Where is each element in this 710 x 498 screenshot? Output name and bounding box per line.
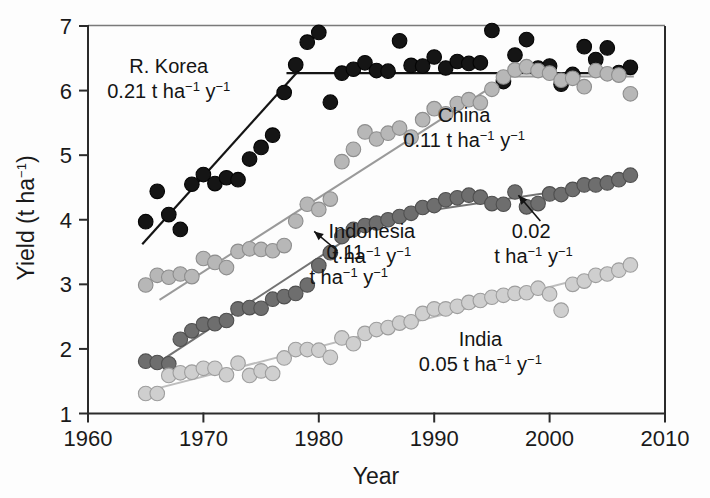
point-china bbox=[415, 112, 430, 127]
point-indonesia bbox=[623, 168, 638, 183]
annotation-unit-t-ha: t ha bbox=[494, 245, 528, 267]
point-india bbox=[231, 356, 246, 371]
annotation-unit-y: y bbox=[358, 266, 374, 288]
annotation-rate-value: 0.11 bbox=[403, 129, 446, 151]
x-tick-label-1990: 1990 bbox=[410, 426, 459, 451]
point-india bbox=[554, 303, 569, 318]
point-rkorea bbox=[392, 34, 407, 49]
annotation-unit-t-ha: t ha bbox=[463, 353, 497, 375]
svg-text:Yield (t ha−1): Yield (t ha−1) bbox=[13, 155, 39, 280]
annotation-unit-exponent-2: −1 bbox=[558, 244, 573, 259]
point-china bbox=[323, 192, 338, 207]
indonesia-rate1-annotation-rate-line1: 0.11 bbox=[327, 241, 364, 263]
yield-vs-year-scatter-chart: 1234567196019701980199020002010 R. Korea… bbox=[0, 0, 710, 498]
y-tick-label-2: 2 bbox=[60, 337, 72, 362]
point-rkorea bbox=[161, 207, 176, 222]
y-tick-label-7: 7 bbox=[60, 14, 72, 39]
point-china bbox=[277, 238, 292, 253]
annotation-unit-exponent-2: −1 bbox=[396, 244, 411, 259]
point-rkorea bbox=[231, 172, 246, 187]
series-annotations-group: R. Korea0.21 t ha−1 y−1China0.11 t ha−1 … bbox=[107, 55, 572, 375]
indonesia-rate2-annotation-rate-line2: t ha−1 y−1 bbox=[494, 244, 573, 267]
point-indonesia bbox=[531, 196, 546, 211]
annotation-unit-exponent-1: −1 bbox=[497, 352, 512, 367]
annotation-unit-exponent-1: −1 bbox=[343, 265, 358, 280]
point-rkorea bbox=[254, 140, 269, 155]
point-rkorea bbox=[519, 32, 534, 47]
y-tick-label-6: 6 bbox=[60, 79, 72, 104]
china-annotation-name: China bbox=[438, 104, 491, 126]
indonesia-annotation-name: Indonesia bbox=[329, 220, 417, 242]
point-rkorea bbox=[242, 152, 257, 167]
point-rkorea bbox=[577, 39, 592, 54]
annotation-unit-exponent-2: −1 bbox=[215, 79, 230, 94]
annotation-unit-t-ha: t ha bbox=[152, 80, 186, 102]
point-rkorea bbox=[600, 41, 615, 56]
point-rkorea bbox=[427, 50, 442, 65]
annotation-unit-exponent-1: −1 bbox=[185, 79, 200, 94]
point-rkorea bbox=[185, 177, 200, 192]
point-rkorea bbox=[277, 85, 292, 100]
point-rkorea bbox=[265, 128, 280, 143]
annotation-unit-exponent-2: −1 bbox=[527, 352, 542, 367]
point-india bbox=[150, 386, 165, 401]
korea-annotation-name: R. Korea bbox=[129, 55, 209, 77]
annotation-unit-exponent-1: −1 bbox=[366, 244, 381, 259]
x-tick-label-1960: 1960 bbox=[64, 426, 113, 451]
indonesia-rate2-annotation-rate-line1: 0.02 bbox=[512, 220, 551, 242]
point-india bbox=[346, 336, 361, 351]
india-annotation-name: India bbox=[459, 328, 503, 350]
point-rkorea bbox=[300, 35, 315, 50]
point-china bbox=[138, 278, 153, 293]
point-india bbox=[542, 287, 557, 302]
y-tick-label-4: 4 bbox=[60, 208, 72, 233]
point-rkorea bbox=[173, 222, 188, 237]
point-rkorea bbox=[138, 214, 153, 229]
x-tick-label-2000: 2000 bbox=[525, 426, 574, 451]
x-tick-label-2010: 2010 bbox=[641, 426, 690, 451]
annotation-unit-y: y bbox=[200, 80, 216, 102]
annotation-unit-exponent-1: −1 bbox=[480, 128, 495, 143]
point-china bbox=[312, 202, 327, 217]
indonesia-rate1-annotation-rate-line2: t ha−1 y−1 bbox=[310, 265, 389, 288]
point-china bbox=[485, 82, 500, 97]
annotation-rate-value: 0.21 bbox=[107, 80, 151, 102]
point-india bbox=[323, 350, 338, 365]
point-china bbox=[335, 154, 350, 169]
point-rkorea bbox=[288, 57, 303, 72]
annotation-unit-t-ha: t ha bbox=[310, 266, 344, 288]
point-rkorea bbox=[473, 56, 488, 71]
point-china bbox=[623, 87, 638, 102]
x-tick-label-1980: 1980 bbox=[294, 426, 343, 451]
india-annotation-rate: 0.05 t ha−1 y−1 bbox=[419, 352, 542, 375]
annotation-unit-exponent-2: −1 bbox=[510, 128, 525, 143]
annotation-unit-y: y bbox=[495, 129, 511, 151]
annotation-unit-y: y bbox=[512, 353, 528, 375]
point-rkorea bbox=[381, 64, 396, 79]
point-rkorea bbox=[508, 48, 523, 63]
y-axis-title: Yield (t ha−1) bbox=[13, 155, 39, 280]
point-china bbox=[185, 269, 200, 284]
x-tick-label-1970: 1970 bbox=[179, 426, 228, 451]
y-axis-title-superscript: −1 bbox=[14, 163, 29, 178]
point-china bbox=[577, 79, 592, 94]
annotation-unit-exponent-2: −1 bbox=[373, 265, 388, 280]
point-china bbox=[612, 68, 627, 83]
point-rkorea bbox=[485, 23, 500, 38]
y-tick-label-5: 5 bbox=[60, 143, 72, 168]
point-india bbox=[623, 258, 638, 273]
point-china bbox=[219, 260, 234, 275]
point-india bbox=[219, 367, 234, 382]
annotation-unit-exponent-1: −1 bbox=[528, 244, 543, 259]
annotation-unit-y: y bbox=[542, 245, 558, 267]
annotation-unit-t-ha: t ha bbox=[446, 129, 480, 151]
point-indonesia bbox=[219, 313, 234, 328]
point-indonesia bbox=[496, 197, 511, 212]
y-tick-label-3: 3 bbox=[60, 272, 72, 297]
y-tick-label-1: 1 bbox=[60, 402, 72, 427]
annotation-rate-value: 0.05 bbox=[419, 353, 463, 375]
point-rkorea bbox=[323, 95, 338, 110]
korea-annotation-rate: 0.21 t ha−1 y−1 bbox=[107, 79, 230, 102]
chart-figure: 1234567196019701980199020002010 R. Korea… bbox=[0, 0, 710, 498]
point-india bbox=[265, 366, 280, 381]
